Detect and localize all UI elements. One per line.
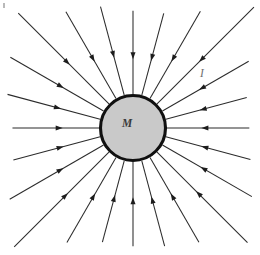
central-mass-circle — [101, 96, 166, 161]
figure-root: M I — [0, 0, 260, 255]
radial-field-diagram: M I — [0, 0, 260, 255]
scan-artifact-speck — [3, 3, 5, 8]
central-mass-label: M — [121, 117, 133, 129]
